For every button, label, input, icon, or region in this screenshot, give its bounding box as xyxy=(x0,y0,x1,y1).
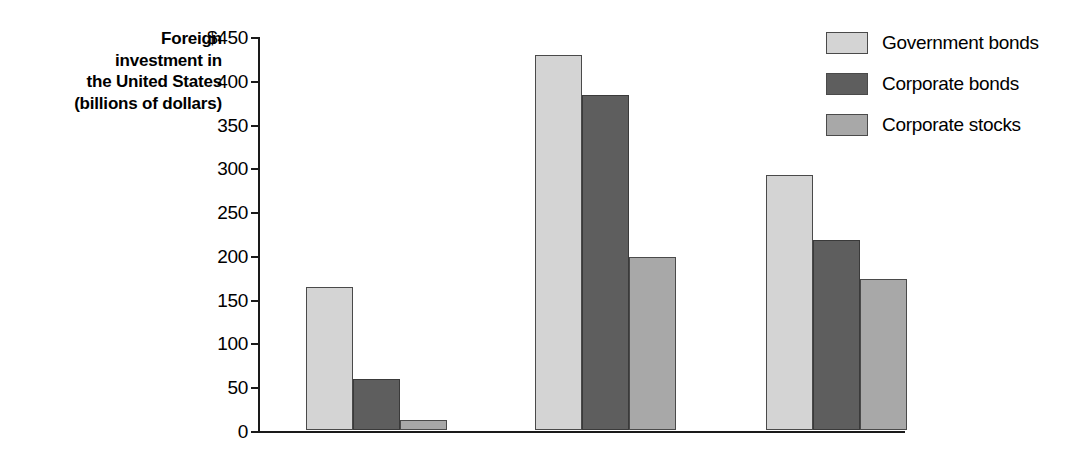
legend-label: Corporate bonds xyxy=(882,73,1019,95)
y-tick-label: 400 xyxy=(158,72,248,91)
bar xyxy=(766,175,813,430)
y-tick-mark xyxy=(251,256,259,258)
y-tick-mark xyxy=(251,168,259,170)
y-tick-mark xyxy=(251,37,259,39)
y-tick-label: 250 xyxy=(158,203,248,222)
y-tick-label: 150 xyxy=(158,291,248,310)
bar xyxy=(306,287,353,430)
bar xyxy=(860,279,907,430)
legend-item: Corporate bonds xyxy=(826,63,1076,104)
x-axis-line xyxy=(258,431,905,433)
legend-swatch xyxy=(826,73,868,95)
y-tick-mark xyxy=(251,431,259,433)
plot-area: 199520072014 xyxy=(258,37,905,432)
y-tick-mark xyxy=(251,125,259,127)
bar-chart: Foreign investment in the United States … xyxy=(0,0,1077,466)
legend-item: Corporate stocks xyxy=(826,104,1076,145)
legend: Government bondsCorporate bondsCorporate… xyxy=(826,22,1076,145)
y-tick-label: 200 xyxy=(158,247,248,266)
y-tick-label: 300 xyxy=(158,159,248,178)
y-tick-label: 100 xyxy=(158,334,248,353)
y-tick-mark xyxy=(251,387,259,389)
y-tick-label: 350 xyxy=(158,116,248,135)
bar xyxy=(353,379,400,430)
y-axis-line xyxy=(258,37,260,433)
y-tick-mark xyxy=(251,343,259,345)
y-tick-mark xyxy=(251,300,259,302)
y-axis-title-line-2: investment in xyxy=(30,50,222,72)
bar xyxy=(582,95,629,430)
bar xyxy=(629,257,676,430)
legend-swatch xyxy=(826,32,868,54)
bar xyxy=(813,240,860,430)
legend-label: Corporate stocks xyxy=(882,114,1021,136)
y-tick-label: 50 xyxy=(158,378,248,397)
y-tick-label: $450 xyxy=(158,28,248,47)
legend-label: Government bonds xyxy=(882,32,1039,54)
bar xyxy=(400,420,447,431)
legend-swatch xyxy=(826,114,868,136)
y-tick-label: 0 xyxy=(158,422,248,441)
legend-item: Government bonds xyxy=(826,22,1076,63)
y-tick-mark xyxy=(251,212,259,214)
y-tick-mark xyxy=(251,81,259,83)
bar xyxy=(535,55,582,430)
y-axis-title-line-4: (billions of dollars) xyxy=(30,93,222,115)
